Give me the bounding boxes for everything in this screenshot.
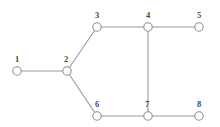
graph-node-label-8: 8 [197,99,201,109]
graph-node-1[interactable] [13,67,21,75]
graph-node-6[interactable] [93,112,101,120]
graph-node-2[interactable] [63,67,71,75]
graph-node-label-4: 4 [146,10,151,20]
graph-node-4[interactable] [144,23,152,31]
graph-edge-2-3 [67,27,97,71]
graph-node-label-2: 2 [64,54,68,64]
graph-node-7[interactable] [144,112,152,120]
labels-layer: 12345678 [15,10,201,109]
graph-node-label-7: 7 [145,99,150,109]
graph-diagram: 12345678 [0,0,220,127]
graph-node-label-1: 1 [15,54,19,64]
graph-node-5[interactable] [195,23,203,31]
graph-node-label-5: 5 [197,10,201,20]
graph-edge-2-6 [67,71,97,116]
edges-layer [17,27,199,116]
graph-node-8[interactable] [195,112,203,120]
graph-node-label-6: 6 [95,99,99,109]
graph-canvas: 12345678 [0,0,220,127]
graph-node-3[interactable] [93,23,101,31]
graph-node-label-3: 3 [95,10,99,20]
